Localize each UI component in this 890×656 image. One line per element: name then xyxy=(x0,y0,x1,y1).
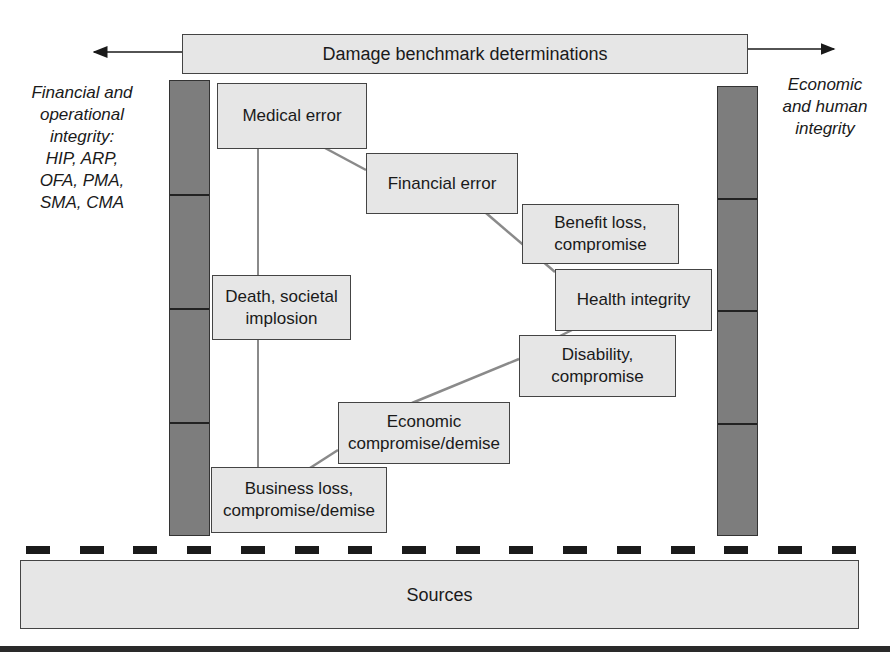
dash xyxy=(456,546,480,554)
node-economic-compromise: Economic compromise/demise xyxy=(338,402,510,464)
node-financial-error: Financial error xyxy=(366,153,518,214)
dash xyxy=(295,546,319,554)
left-label-line: SMA, CMA xyxy=(2,192,162,214)
dash xyxy=(563,546,587,554)
dash xyxy=(133,546,157,554)
bar-divider xyxy=(170,422,209,424)
dash xyxy=(402,546,426,554)
node-label-line1: Death, societal xyxy=(225,286,337,308)
dash xyxy=(348,546,372,554)
dash xyxy=(832,546,856,554)
damage-benchmark-banner: Damage benchmark determinations xyxy=(182,34,748,74)
dash xyxy=(778,546,802,554)
left-label-line: operational xyxy=(2,104,162,126)
node-death-societal-implosion: Death, societal implosion xyxy=(212,275,351,340)
dash xyxy=(187,546,211,554)
dashed-separator xyxy=(26,546,856,554)
dash xyxy=(80,546,104,554)
bottom-rule xyxy=(0,646,890,652)
bar-divider xyxy=(170,308,209,310)
node-label: Health integrity xyxy=(577,289,690,311)
right-side-label: Economic and human integrity xyxy=(760,74,890,140)
left-side-label: Financial and operational integrity: HIP… xyxy=(2,82,162,214)
node-business-loss: Business loss, compromise/demise xyxy=(211,467,387,533)
left-integrity-bar xyxy=(169,80,210,536)
dash xyxy=(509,546,533,554)
sources-label: Sources xyxy=(406,584,472,606)
bar-divider xyxy=(718,198,757,200)
connector-medical-financial xyxy=(325,148,366,170)
node-medical-error: Medical error xyxy=(217,83,367,149)
left-label-line: integrity: xyxy=(2,126,162,148)
left-label-line: Financial and xyxy=(2,82,162,104)
connector-economic-business xyxy=(310,450,338,468)
connector-disability-economic xyxy=(412,359,519,403)
dash xyxy=(671,546,695,554)
node-label-line2: implosion xyxy=(246,308,318,330)
right-label-line: integrity xyxy=(760,118,890,140)
node-label-line1: Disability, xyxy=(562,344,633,366)
bar-divider xyxy=(170,194,209,196)
bar-divider xyxy=(718,423,757,425)
node-label-line2: compromise xyxy=(554,234,647,256)
dash xyxy=(724,546,748,554)
node-label-line2: compromise/demise xyxy=(223,500,375,522)
node-disability: Disability, compromise xyxy=(519,335,676,397)
left-label-line: HIP, ARP, xyxy=(2,148,162,170)
node-label-line2: compromise/demise xyxy=(348,433,500,455)
right-label-line: and human xyxy=(760,96,890,118)
dash xyxy=(241,546,265,554)
node-label: Financial error xyxy=(388,173,497,195)
node-label: Medical error xyxy=(242,105,341,127)
node-benefit-loss: Benefit loss, compromise xyxy=(522,204,679,264)
right-integrity-bar xyxy=(717,86,758,536)
node-health-integrity: Health integrity xyxy=(555,269,712,331)
left-label-line: OFA, PMA, xyxy=(2,170,162,192)
node-label-line1: Economic xyxy=(387,411,462,433)
banner-label: Damage benchmark determinations xyxy=(322,43,607,65)
dash xyxy=(617,546,641,554)
node-label-line2: compromise xyxy=(551,366,644,388)
node-label-line1: Business loss, xyxy=(245,478,354,500)
dash xyxy=(26,546,50,554)
node-label-line1: Benefit loss, xyxy=(554,212,647,234)
sources-box: Sources xyxy=(20,560,859,629)
bar-divider xyxy=(718,310,757,312)
right-label-line: Economic xyxy=(760,74,890,96)
